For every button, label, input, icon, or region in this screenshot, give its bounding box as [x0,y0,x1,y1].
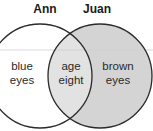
set-label-juan: Juan [83,2,111,16]
juan-only-line-1: brown [102,60,133,72]
ann-only-line-1: blue [11,60,33,72]
juan-only-line-2: eyes [106,74,131,86]
venn-diagram: Ann Juan blue eyes age eight brown eyes [0,0,153,131]
both-line-2: eight [59,74,85,86]
ann-only-line-2: eyes [10,74,35,86]
set-label-ann: Ann [33,2,56,16]
both-line-1: age [61,60,80,72]
